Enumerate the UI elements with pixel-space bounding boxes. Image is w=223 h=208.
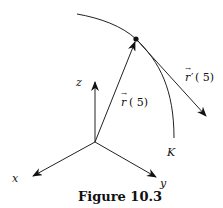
tangent-vector-label: → r ′ ( 5) — [185, 65, 214, 84]
z-axis-label: z — [75, 76, 82, 89]
vector-symbol: r — [121, 96, 127, 109]
curve-k — [77, 14, 174, 138]
vector-argument: ( 5) — [195, 71, 214, 84]
position-vector-label: → r ( 5) — [121, 90, 148, 109]
curve-label: K — [166, 146, 176, 159]
vector-argument: ( 5) — [129, 96, 148, 109]
x-axis-label: x — [12, 172, 19, 185]
y-axis — [95, 142, 156, 177]
position-vector — [95, 42, 135, 142]
vector-prime: ′ — [191, 71, 194, 84]
curve-point — [133, 36, 138, 41]
figure-diagram: z x y K → r ( 5) → r ′ ( 5) Figure 10.3 — [0, 0, 223, 208]
figure-caption: Figure 10.3 — [78, 189, 162, 204]
x-axis — [33, 142, 95, 176]
